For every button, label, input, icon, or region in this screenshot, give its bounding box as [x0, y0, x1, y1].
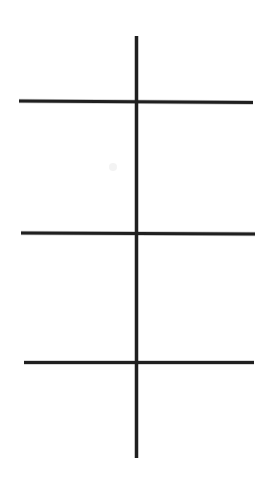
scan-speck-artifact	[109, 163, 117, 171]
diagram-canvas	[0, 0, 269, 489]
line-diagram-figure	[0, 0, 269, 489]
